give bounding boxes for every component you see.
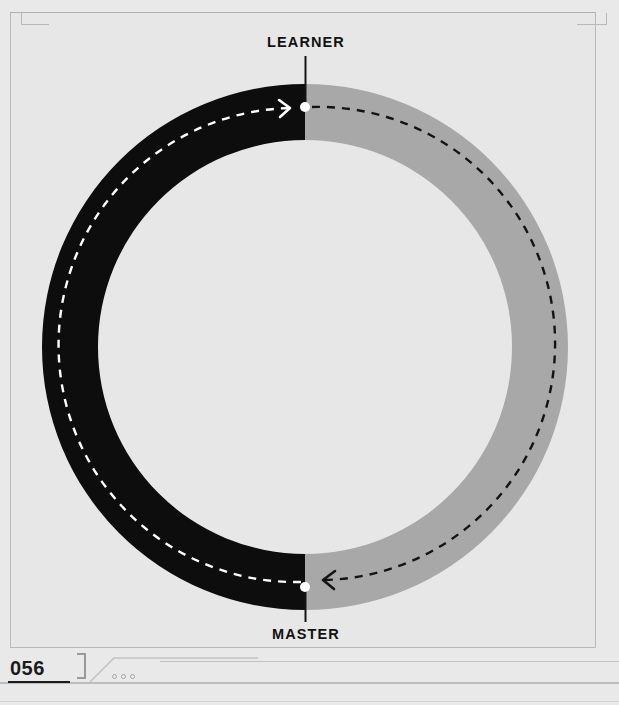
node-marker-learner bbox=[300, 102, 310, 112]
page-number: 056 bbox=[10, 657, 45, 680]
page-footer: 056 bbox=[0, 648, 619, 705]
page-number-underline bbox=[8, 681, 70, 683]
footer-dot bbox=[130, 674, 135, 679]
footer-dot bbox=[121, 674, 126, 679]
footer-diagonal-rule bbox=[88, 654, 258, 684]
footer-rule-mid bbox=[0, 682, 619, 684]
ring-chart-svg bbox=[0, 0, 619, 660]
ring-segment-learner-to-master bbox=[42, 84, 305, 610]
label-learner: LEARNER bbox=[267, 34, 345, 50]
label-master: MASTER bbox=[272, 626, 340, 642]
footer-rule-bottom bbox=[0, 701, 619, 702]
cycle-diagram: LEARNER MASTER bbox=[0, 0, 619, 660]
footer-dots-decor bbox=[112, 674, 135, 679]
footer-bracket-decor bbox=[77, 653, 86, 679]
node-marker-master bbox=[300, 582, 310, 592]
footer-dot bbox=[112, 674, 117, 679]
ring-segment-master-to-learner bbox=[305, 84, 568, 610]
